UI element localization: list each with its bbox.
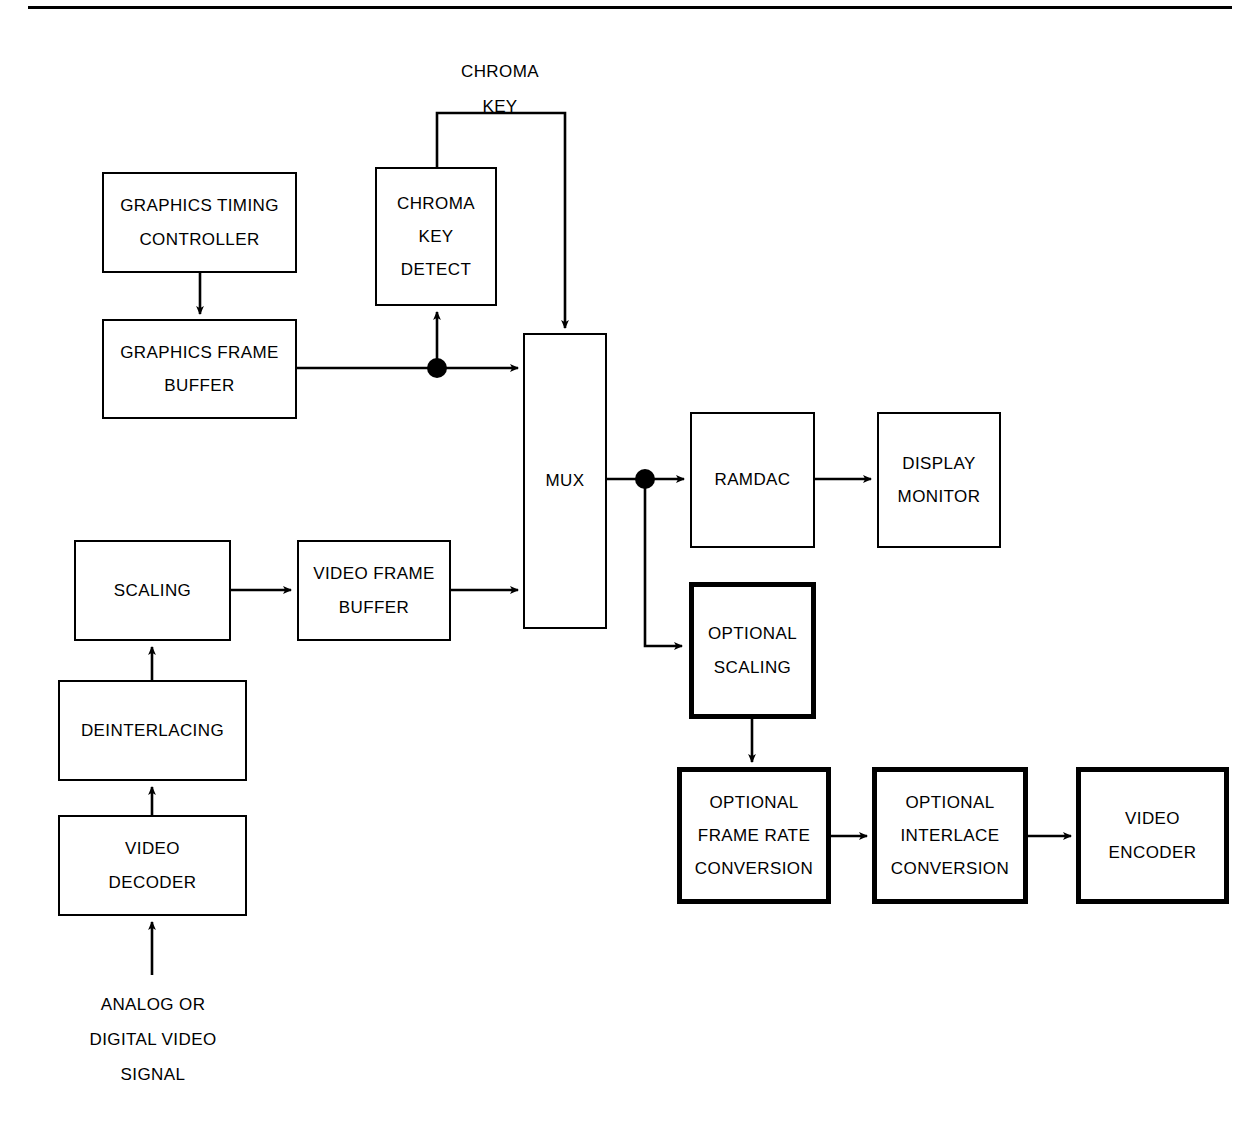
block-label-line: VIDEO [1125,802,1180,835]
block-label-line: DECODER [109,866,197,899]
block-label-line: VIDEO [125,832,180,865]
label-line: CHROMA [420,55,580,90]
block-label-line: CHROMA [397,187,475,220]
block-label-line: BUFFER [339,591,409,624]
block-label-line: CONVERSION [891,852,1009,885]
junction-dot-graphics-chroma [427,358,447,378]
block-label-line: CONVERSION [695,852,813,885]
block-label-line: RAMDAC [714,463,790,496]
block-display-monitor[interactable]: DISPLAY MONITOR [877,412,1001,548]
block-label-line: OPTIONAL [905,786,994,819]
block-label-line: DEINTERLACING [81,714,224,747]
block-optional-scaling[interactable]: OPTIONAL SCALING [689,582,816,719]
block-label-line: OPTIONAL [708,617,797,650]
label-line: ANALOG OR [40,988,266,1023]
block-deinterlacing[interactable]: DEINTERLACING [58,680,247,781]
label-line: DIGITAL VIDEO [40,1023,266,1058]
block-mux[interactable]: MUX [523,333,607,629]
label-line: SIGNAL [40,1058,266,1093]
block-scaling[interactable]: SCALING [74,540,231,641]
block-label-line: ENCODER [1109,836,1197,869]
label-line: KEY [420,90,580,125]
block-graphics-timing-controller[interactable]: GRAPHICS TIMING CONTROLLER [102,172,297,273]
block-label-line: VIDEO FRAME [313,557,435,590]
block-label-line: MUX [546,464,585,497]
block-optional-interlace-conversion[interactable]: OPTIONAL INTERLACE CONVERSION [872,767,1028,904]
block-label-line: OPTIONAL [709,786,798,819]
block-label-line: MONITOR [898,480,981,513]
block-ramdac[interactable]: RAMDAC [690,412,815,548]
block-label-line: FRAME RATE [698,819,810,852]
block-label-line: GRAPHICS TIMING [120,189,279,222]
block-graphics-frame-buffer[interactable]: GRAPHICS FRAME BUFFER [102,319,297,419]
junction-dot-mux-output [635,469,655,489]
connector-mux-tap-to-optional-scaling [645,479,682,646]
block-label-line: KEY [418,220,453,253]
block-label-line: BUFFER [164,369,234,402]
block-video-encoder[interactable]: VIDEO ENCODER [1076,767,1229,904]
label-input-signal: ANALOG OR DIGITAL VIDEO SIGNAL [40,988,266,1093]
block-video-frame-buffer[interactable]: VIDEO FRAME BUFFER [297,540,451,641]
block-video-decoder[interactable]: VIDEO DECODER [58,815,247,916]
block-label-line: GRAPHICS FRAME [120,336,279,369]
top-horizontal-rule [28,6,1232,9]
block-label-line: SCALING [714,651,791,684]
block-label-line: INTERLACE [900,819,999,852]
block-label-line: DISPLAY [902,447,975,480]
block-label-line: DETECT [401,253,471,286]
label-chroma-key-signal: CHROMA KEY [420,55,580,125]
block-diagram-canvas: GRAPHICS TIMING CONTROLLER GRAPHICS FRAM… [0,0,1257,1127]
block-optional-frame-rate-conversion[interactable]: OPTIONAL FRAME RATE CONVERSION [677,767,831,904]
block-label-line: SCALING [114,574,191,607]
block-chroma-key-detect[interactable]: CHROMA KEY DETECT [375,167,497,306]
block-label-line: CONTROLLER [139,223,259,256]
